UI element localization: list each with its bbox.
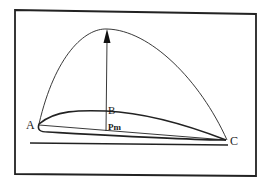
arrow-head-icon [104,29,111,43]
pressure-arrow-shaft [106,40,107,131]
ground-line [30,143,228,145]
pressure-envelope-curve [39,29,227,140]
airfoil-diagram: A B Pm C [0,0,268,190]
frame-border [15,10,256,176]
label-a: A [26,118,35,132]
label-pm: Pm [108,122,121,132]
label-b: B [108,104,115,116]
airfoil-upper-surface [39,111,226,140]
label-c: C [230,134,238,148]
